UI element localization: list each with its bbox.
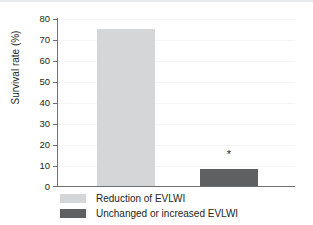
y-tick-label: 30 — [26, 119, 50, 129]
legend-item-reduction: Reduction of EVLWI — [60, 191, 238, 206]
y-tick-70: 70 — [24, 35, 50, 45]
plot-area: * — [58, 19, 295, 186]
y-tick-label: 50 — [26, 77, 50, 87]
legend-swatch-icon — [60, 209, 86, 218]
y-tick-30: 30 — [24, 119, 50, 129]
y-tick-label: 70 — [26, 35, 50, 45]
y-tick-label: 20 — [26, 140, 50, 150]
y-tick-label: 0 — [26, 182, 50, 192]
y-tick-40: 40 — [24, 98, 50, 108]
y-tick-label: 10 — [26, 161, 50, 171]
y-axis-title: Survival rate (%) — [10, 6, 21, 130]
legend: Reduction of EVLWI Unchanged or increase… — [60, 191, 238, 221]
y-tick-20: 20 — [24, 140, 50, 150]
y-tick-60: 60 — [24, 56, 50, 66]
y-tick-label: 80 — [26, 14, 50, 24]
legend-item-unchanged: Unchanged or increased EVLWI — [60, 206, 238, 221]
legend-item-label: Unchanged or increased EVLWI — [96, 208, 238, 219]
y-tick-80: 80 — [24, 14, 50, 24]
y-tick-label: 40 — [26, 98, 50, 108]
top-border-rule — [0, 0, 313, 2]
legend-swatch-icon — [60, 194, 86, 203]
x-axis-line — [57, 186, 295, 187]
bar-reduction-of-evlwi — [97, 29, 155, 186]
y-tick-10: 10 — [24, 161, 50, 171]
y-tick-0: 0 — [24, 182, 50, 192]
legend-item-label: Reduction of EVLWI — [96, 193, 185, 204]
significance-asterisk: * — [222, 150, 236, 158]
y-tick-label: 60 — [26, 56, 50, 66]
bar-unchanged-or-increased-evlwi — [200, 169, 258, 186]
survival-rate-bar-chart: Survival rate (%) 80 70 60 50 40 30 20 1… — [0, 0, 313, 225]
y-tick-50: 50 — [24, 77, 50, 87]
